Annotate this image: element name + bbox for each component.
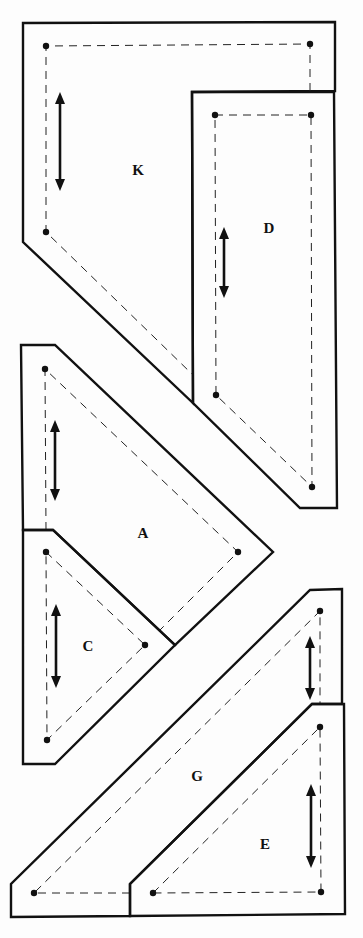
grain-arrow-icon: [219, 227, 229, 298]
piece-d: [192, 92, 337, 508]
piece-label-e: E: [260, 836, 270, 853]
piece-label-c: C: [83, 638, 94, 655]
grain-arrow-icon: [305, 636, 315, 700]
piece-g: [11, 589, 342, 917]
piece-a: [21, 345, 273, 645]
piece-label-g: G: [191, 768, 203, 785]
piece-label-k: K: [132, 162, 144, 179]
grain-arrow-icon: [306, 784, 316, 868]
piece-k: [23, 22, 335, 403]
pattern-diagram: [0, 0, 363, 938]
grain-arrow-icon: [51, 604, 61, 688]
piece-c: [23, 530, 175, 764]
grain-arrow-icon: [55, 92, 65, 191]
grain-arrow-icon: [50, 420, 60, 501]
piece-label-d: D: [264, 220, 275, 237]
piece-label-a: A: [138, 525, 149, 542]
